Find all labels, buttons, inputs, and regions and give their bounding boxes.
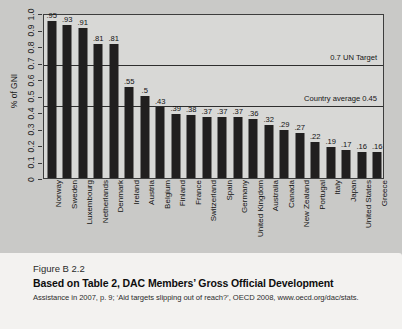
bar[interactable] (187, 115, 196, 178)
x-label-slot: United States (353, 180, 369, 252)
x-label-slot: Portugal (307, 180, 323, 252)
figure-container: % of GNI 00.10.20.30.40.50.60.70.80.91.0… (0, 0, 402, 329)
bar-slot[interactable]: .17 (339, 15, 355, 178)
bar-value-label: .37 (217, 107, 228, 116)
x-label-slot: Norway (43, 180, 59, 252)
bar-slot[interactable]: .36 (246, 15, 262, 178)
x-label-slot: Australia (260, 180, 276, 252)
bar-slot[interactable]: .43 (153, 15, 169, 178)
y-axis-tick-mark (38, 146, 42, 147)
y-axis-tick-label: 0.6 (26, 73, 37, 87)
bar-value-label: .5 (142, 86, 148, 95)
bar-slot[interactable]: .37 (199, 15, 215, 178)
bar-value-label: .38 (186, 105, 197, 114)
bar-value-label: .22 (310, 132, 321, 141)
bar-slot[interactable]: .19 (323, 15, 339, 178)
x-axis-category-label: Greece (380, 180, 389, 206)
y-axis-tick-label: 0.5 (26, 90, 37, 104)
plot-area: 0.7 UN TargetCountry average 0.45 .95.93… (43, 14, 384, 179)
y-axis-tick-mark (38, 163, 42, 164)
x-label-slot: Austria (136, 180, 152, 252)
y-axis-tick-label: 0.7 (26, 57, 37, 71)
y-axis-tick-labels: 00.10.20.30.40.50.60.70.80.91.0 (22, 14, 38, 179)
bar[interactable] (264, 125, 273, 178)
y-axis-tick-label: 1.0 (26, 7, 37, 21)
bar-slot[interactable]: .93 (60, 15, 76, 178)
x-label-slot: France (183, 180, 199, 252)
figure-caption: Figure B 2.2 Based on Table 2, DAC Membe… (0, 253, 402, 329)
x-label-slot: Germany (229, 180, 245, 252)
bar-slot[interactable]: .27 (292, 15, 308, 178)
x-label-slot: Belgium (152, 180, 168, 252)
bar-value-label: .39 (170, 104, 181, 113)
bar[interactable] (233, 117, 242, 178)
bar[interactable] (218, 117, 227, 178)
bar-slot[interactable]: .22 (308, 15, 324, 178)
bar-value-label: .95 (46, 11, 57, 20)
bar[interactable] (47, 21, 56, 178)
bar[interactable] (280, 130, 289, 178)
x-label-slot: Netherlands (90, 180, 106, 252)
bar-slot[interactable]: .81 (91, 15, 107, 178)
x-label-slot: New Zealand (291, 180, 307, 252)
bar-value-label: .37 (201, 107, 212, 116)
bar-value-label: .29 (279, 120, 290, 129)
x-label-slot: United Kingdom (245, 180, 261, 252)
caption-title: Based on Table 2, DAC Members’ Gross Off… (33, 277, 393, 289)
bar[interactable] (357, 152, 366, 178)
bar[interactable] (109, 44, 118, 178)
x-label-slot: Switzerland (198, 180, 214, 252)
bar-slot[interactable]: .5 (137, 15, 153, 178)
bar[interactable] (342, 150, 351, 178)
bar[interactable] (326, 147, 335, 178)
bar-slot[interactable]: .81 (106, 15, 122, 178)
bar[interactable] (295, 133, 304, 178)
bar-series: .95.93.91.81.81.55.5.43.39.38.37.37.37.3… (44, 15, 383, 178)
bar[interactable] (78, 28, 87, 178)
bar-slot[interactable]: .55 (122, 15, 138, 178)
y-axis-tick-mark (38, 179, 42, 180)
bar-slot[interactable]: .95 (44, 15, 60, 178)
bar-value-label: .43 (155, 97, 166, 106)
bar-slot[interactable]: .39 (168, 15, 184, 178)
bar-value-label: .17 (341, 140, 352, 149)
bar-value-label: .27 (294, 123, 305, 132)
y-axis-tick-mark (38, 130, 42, 131)
x-label-slot: Italy (322, 180, 338, 252)
y-axis-tick-mark (38, 113, 42, 114)
bar-slot[interactable]: .16 (354, 15, 370, 178)
y-axis-tick-mark (38, 64, 42, 65)
bar[interactable] (202, 117, 211, 178)
bar-slot[interactable]: .32 (261, 15, 277, 178)
bar-slot[interactable]: .29 (277, 15, 293, 178)
bar-value-label: .36 (248, 109, 259, 118)
bar[interactable] (249, 119, 258, 178)
bar[interactable] (140, 96, 149, 179)
bar[interactable] (94, 44, 103, 178)
x-label-slot: Canada (276, 180, 292, 252)
bar[interactable] (373, 152, 382, 178)
bar-slot[interactable]: .38 (184, 15, 200, 178)
y-axis-tick-label: 0.4 (26, 106, 37, 120)
y-axis-tick-label: 0 (26, 172, 37, 186)
bar[interactable] (125, 87, 134, 178)
caption-inner: Figure B 2.2 Based on Table 2, DAC Membe… (33, 263, 393, 302)
y-axis-tick-mark (38, 80, 42, 81)
bar-slot[interactable]: .16 (370, 15, 386, 178)
bar-slot[interactable]: .91 (75, 15, 91, 178)
y-axis-tick-mark (38, 14, 42, 15)
bar-slot[interactable]: .37 (230, 15, 246, 178)
bar-slot[interactable]: .37 (215, 15, 231, 178)
bar[interactable] (171, 114, 180, 178)
bar-value-label: .81 (108, 34, 119, 43)
x-label-slot: Greece (369, 180, 385, 252)
bar-value-label: .32 (263, 115, 274, 124)
bar[interactable] (63, 25, 72, 178)
y-axis-tick-label: 0.8 (26, 40, 37, 54)
y-axis-tick-label: 0.3 (26, 123, 37, 137)
y-axis-tick-label: 0.9 (26, 24, 37, 38)
x-label-slot: Finland (167, 180, 183, 252)
x-label-slot: Japan (338, 180, 354, 252)
bar[interactable] (156, 107, 165, 178)
bar[interactable] (311, 142, 320, 178)
